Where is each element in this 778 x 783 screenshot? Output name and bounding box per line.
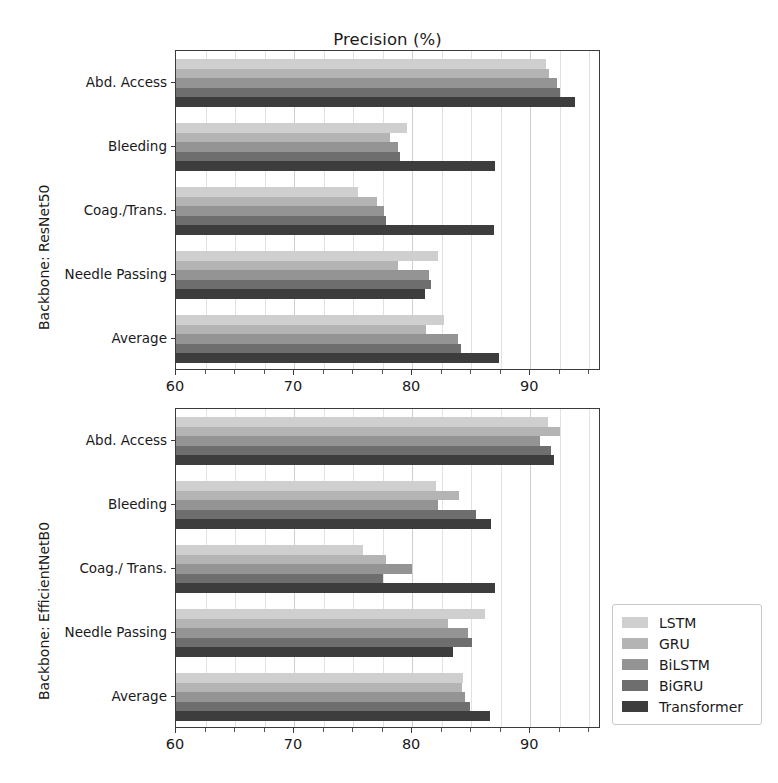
legend-swatch-icon	[622, 638, 648, 649]
x-tick-label: 70	[284, 378, 302, 394]
x-tick-mark	[264, 728, 265, 732]
bar-bilstm-0	[176, 78, 557, 88]
bar-lstm-0	[176, 417, 548, 427]
y-tick-mark	[171, 146, 175, 147]
y-tick-mark	[171, 210, 175, 211]
legend-swatch-icon	[622, 701, 648, 712]
x-tick-mark	[500, 370, 501, 374]
precision-bar-chart-figure: Precision (%) Backbone: ResNet50 Abd. Ac…	[0, 0, 778, 783]
bar-bigru-4	[176, 344, 461, 354]
x-tick-mark	[500, 728, 501, 732]
bar-bilstm-2	[176, 564, 412, 574]
chart-title: Precision (%)	[175, 30, 600, 49]
bar-gru-4	[176, 683, 462, 693]
bar-lstm-1	[176, 123, 407, 133]
x-tick-mark	[441, 728, 442, 732]
bar-bigru-0	[176, 446, 551, 456]
category-label: Abd. Access	[51, 432, 167, 448]
bar-bilstm-1	[176, 142, 398, 152]
legend-label: Transformer	[659, 700, 743, 714]
x-tick-mark	[470, 728, 471, 732]
x-tick-mark	[323, 370, 324, 374]
x-tick-mark	[293, 728, 294, 733]
x-tick-mark	[352, 728, 353, 732]
y-tick-mark	[171, 632, 175, 633]
x-tick-mark	[559, 728, 560, 732]
bar-bilstm-4	[176, 334, 458, 344]
x-tick-mark	[529, 728, 530, 733]
x-tick-label: 80	[402, 736, 420, 752]
gridline	[589, 409, 590, 727]
x-tick-mark	[293, 370, 294, 375]
panel-1-plot-area	[175, 408, 600, 728]
bar-transformer-3	[176, 647, 453, 657]
x-tick-mark	[205, 728, 206, 732]
panel-0-plot-area	[175, 50, 600, 370]
bar-bigru-0	[176, 88, 560, 98]
bar-transformer-4	[176, 353, 499, 363]
bar-lstm-4	[176, 315, 444, 325]
bar-lstm-4	[176, 673, 463, 683]
x-tick-mark	[175, 370, 176, 375]
bar-bigru-4	[176, 702, 470, 712]
legend-label: LSTM	[659, 616, 696, 630]
bar-transformer-3	[176, 289, 425, 299]
bar-gru-1	[176, 133, 390, 143]
y-tick-mark	[171, 338, 175, 339]
bar-lstm-3	[176, 609, 485, 619]
legend-item-bigru[interactable]: BiGRU	[622, 675, 751, 696]
category-label: Bleeding	[51, 496, 167, 512]
x-tick-mark	[382, 728, 383, 732]
bar-bilstm-4	[176, 692, 465, 702]
bar-gru-0	[176, 427, 560, 437]
x-tick-mark	[205, 370, 206, 374]
x-tick-mark	[411, 370, 412, 375]
gridline	[589, 51, 590, 369]
category-label: Needle Passing	[51, 624, 167, 640]
category-label: Average	[51, 330, 167, 346]
panel-1-ylabel: Backbone: EfficientNetB0	[36, 522, 52, 700]
bar-bigru-2	[176, 216, 386, 226]
bar-lstm-3	[176, 251, 438, 261]
category-label: Coag./ Trans.	[51, 560, 167, 576]
bar-transformer-1	[176, 161, 495, 171]
x-tick-label: 90	[520, 378, 538, 394]
bar-lstm-2	[176, 187, 358, 197]
bar-lstm-2	[176, 545, 363, 555]
bar-gru-0	[176, 69, 549, 79]
x-tick-mark	[588, 370, 589, 374]
x-tick-mark	[234, 370, 235, 374]
legend-item-bilstm[interactable]: BiLSTM	[622, 654, 751, 675]
y-tick-mark	[171, 504, 175, 505]
legend-swatch-icon	[622, 617, 648, 628]
legend-item-gru[interactable]: GRU	[622, 633, 751, 654]
y-tick-mark	[171, 82, 175, 83]
x-tick-mark	[411, 728, 412, 733]
bar-bigru-3	[176, 280, 431, 290]
x-tick-mark	[352, 370, 353, 374]
panel-0-ylabel: Backbone: ResNet50	[36, 185, 52, 331]
gridline	[560, 409, 561, 727]
legend: LSTMGRUBiLSTMBiGRUTransformer	[612, 604, 762, 725]
bar-gru-2	[176, 555, 386, 565]
bar-bigru-1	[176, 152, 400, 162]
x-tick-label: 60	[166, 736, 184, 752]
x-tick-mark	[382, 370, 383, 374]
legend-item-transformer[interactable]: Transformer	[622, 696, 751, 717]
bar-transformer-4	[176, 711, 490, 721]
bar-bigru-1	[176, 510, 476, 520]
legend-swatch-icon	[622, 659, 648, 670]
x-tick-mark	[441, 370, 442, 374]
x-tick-mark	[175, 728, 176, 733]
legend-swatch-icon	[622, 680, 648, 691]
y-tick-mark	[171, 696, 175, 697]
bar-gru-3	[176, 619, 448, 629]
bar-gru-2	[176, 197, 377, 207]
bar-bigru-3	[176, 638, 472, 648]
x-tick-mark	[529, 370, 530, 375]
bar-transformer-2	[176, 583, 495, 593]
x-tick-label: 70	[284, 736, 302, 752]
bar-bilstm-3	[176, 270, 429, 280]
legend-item-lstm[interactable]: LSTM	[622, 612, 751, 633]
y-tick-mark	[171, 274, 175, 275]
